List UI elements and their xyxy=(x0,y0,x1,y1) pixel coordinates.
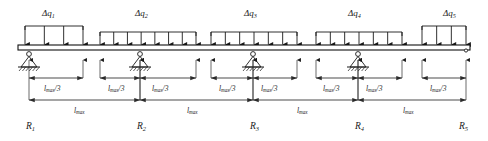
ground-hatch xyxy=(348,67,351,71)
dim-label-span-3: lmax xyxy=(403,106,414,115)
reaction-label-s4: R4 xyxy=(355,121,364,132)
ground-hatch xyxy=(29,67,32,71)
ground-hatch xyxy=(36,67,39,71)
dim-ext-third-5 xyxy=(316,60,358,78)
load-group-q1 xyxy=(25,26,83,45)
ground-hatch xyxy=(133,67,136,71)
dim-label-span-2: lmax xyxy=(297,106,308,115)
diagram-canvas xyxy=(0,0,488,141)
reaction-label-s5: R5 xyxy=(459,121,468,132)
dim-label-third-7: lmax/3 xyxy=(430,84,446,93)
support-layer xyxy=(18,49,468,71)
dim-label-third-6: lmax/3 xyxy=(366,84,382,93)
ground-hatch xyxy=(246,67,249,71)
dim-label-third-0: lmax/3 xyxy=(44,84,60,93)
dim-ext-third-7 xyxy=(422,60,466,78)
ground-hatch xyxy=(358,67,361,71)
ground-hatch xyxy=(22,67,25,71)
ground-hatch xyxy=(365,67,368,71)
dim-label-third-5: lmax/3 xyxy=(323,84,339,93)
ground-hatch xyxy=(243,67,246,71)
ground-hatch xyxy=(33,67,36,71)
load-layer xyxy=(25,26,466,45)
dim-label-third-2: lmax/3 xyxy=(152,84,168,93)
load-label-q1: Δq1 xyxy=(42,8,55,19)
ground-hatch xyxy=(144,67,147,71)
dim-ext-third-3 xyxy=(211,60,253,78)
load-label-q2: Δq2 xyxy=(135,8,148,19)
dim-label-third-4: lmax/3 xyxy=(261,84,277,93)
load-label-q3: Δq3 xyxy=(244,8,257,19)
dim-label-third-1: lmax/3 xyxy=(108,84,124,93)
ground-hatch xyxy=(257,67,260,71)
load-group-q2 xyxy=(100,32,196,45)
ground-hatch xyxy=(140,67,143,71)
load-label-q4: Δq4 xyxy=(348,8,361,19)
reaction-label-s1: R1 xyxy=(26,121,35,132)
load-group-q3 xyxy=(211,32,297,45)
dim-ext-third-0 xyxy=(29,60,83,78)
reaction-label-s2: R2 xyxy=(137,121,146,132)
support-s5 xyxy=(464,49,467,52)
dim-ext-third-6 xyxy=(358,60,402,78)
ground-hatch xyxy=(130,67,133,71)
dim-label-span-0: lmax xyxy=(74,106,85,115)
ground-hatch xyxy=(260,67,263,71)
ground-hatch xyxy=(253,67,256,71)
load-group-q4 xyxy=(316,32,402,45)
dim-ext-third-4 xyxy=(253,60,297,78)
reaction-label-s3: R3 xyxy=(250,121,259,132)
ground-hatch xyxy=(147,67,150,71)
ground-hatch xyxy=(351,67,354,71)
beam-member xyxy=(18,45,470,50)
load-group-q5 xyxy=(422,26,466,45)
beam-load-diagram: Δq1Δq2Δq3Δq4Δq5R1R2R3R4R5lmax/3lmax/3lma… xyxy=(0,0,488,141)
ground-hatch xyxy=(362,67,365,71)
dim-label-third-3: lmax/3 xyxy=(219,84,235,93)
beam-layer xyxy=(18,45,470,50)
load-label-q5: Δq5 xyxy=(443,8,456,19)
dim-ext-third-1 xyxy=(100,60,140,78)
dim-label-span-1: lmax xyxy=(187,106,198,115)
ground-hatch xyxy=(19,67,22,71)
